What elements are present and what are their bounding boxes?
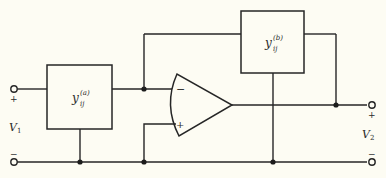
output-minus-label: − <box>368 149 376 159</box>
block-a-label: y <box>71 91 79 105</box>
block-b-superscript: (b) <box>273 34 283 42</box>
two-port-block-a <box>47 65 112 129</box>
input-terminal-plus <box>11 86 17 92</box>
junction-dot <box>333 102 338 107</box>
junction-dot <box>141 159 146 164</box>
junction-dot <box>270 159 275 164</box>
input-terminal-minus <box>11 159 17 165</box>
noninverting-input-wire <box>144 124 176 162</box>
output-voltage-label: V2 <box>362 128 374 142</box>
input-plus-label: + <box>10 94 18 104</box>
junction-dot <box>77 159 82 164</box>
block-b-subscript: ij <box>273 45 278 53</box>
block-a-subscript: ij <box>80 100 85 108</box>
block-b-label: y <box>264 36 272 50</box>
input-minus-label: − <box>10 149 18 159</box>
opamp-inverting-label: − <box>176 83 185 96</box>
output-terminal-plus <box>369 102 375 108</box>
opamp-noninverting-label: + <box>176 119 184 130</box>
output-plus-label: + <box>368 110 376 120</box>
input-voltage-label: V1 <box>9 121 21 135</box>
block-a-superscript: (a) <box>80 89 90 97</box>
circuit-diagram: y ij (a) y ij (b) − + + − V1 + − V2 <box>0 0 386 178</box>
output-terminal-minus <box>369 159 375 165</box>
two-port-block-b <box>241 11 304 73</box>
